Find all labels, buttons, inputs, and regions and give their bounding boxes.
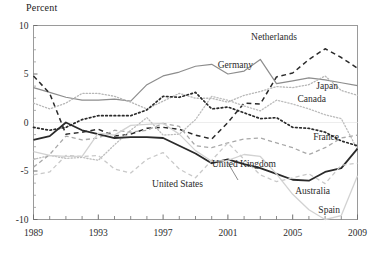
y-tick-label: -10 <box>16 215 29 225</box>
series-label-australia: Australia <box>295 186 331 196</box>
series-line-australia <box>34 143 358 184</box>
series-label-netherlands: Netherlands <box>251 32 297 42</box>
chart-plot-area: 1050-5-10 198919931997200120052009 Nethe… <box>0 0 378 265</box>
y-tick-label: -5 <box>21 166 29 176</box>
series-label-spain: Spain <box>318 205 340 215</box>
x-tick-label: 1989 <box>24 228 43 238</box>
series-line-united-states <box>34 123 358 181</box>
x-tick-label: 2001 <box>218 228 237 238</box>
x-axis-tick-labels: 198919931997200120052009 <box>24 228 367 238</box>
series-inline-labels: NetherlandsGermanyJapanCanadaFranceUnite… <box>152 32 340 215</box>
series-label-united-states: United States <box>152 179 203 189</box>
series-label-japan: Japan <box>316 81 338 91</box>
current-account-balance-chart: Percent 1050-5-10 1989199319972001200520… <box>0 0 378 265</box>
x-tick-label: 2005 <box>283 228 302 238</box>
y-axis-tick-labels: 1050-5-10 <box>16 21 29 225</box>
series-label-germany: Germany <box>218 60 254 70</box>
x-axis-ticks <box>34 215 358 220</box>
y-tick-label: 5 <box>24 69 29 79</box>
x-tick-label: 1997 <box>154 228 173 238</box>
y-tick-label: 0 <box>24 118 29 128</box>
series-line-spain <box>34 123 358 219</box>
series-label-canada: Canada <box>298 94 327 104</box>
x-tick-label: 2009 <box>348 228 367 238</box>
series-label-united-kingdom: United Kingdom <box>212 159 277 169</box>
y-tick-label: 10 <box>19 21 29 31</box>
x-tick-label: 1993 <box>89 228 108 238</box>
series-label-france: France <box>313 132 339 142</box>
